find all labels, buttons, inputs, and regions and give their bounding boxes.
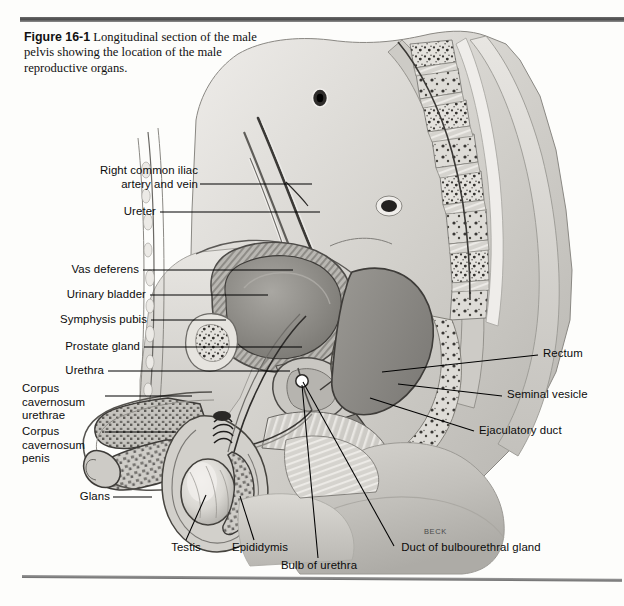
label-rectum: Rectum [543, 347, 621, 361]
label-duct-of-bulbourethral-gland: Duct of bulbourethral gland [381, 541, 561, 555]
artist-signature: BECK [424, 527, 447, 536]
label-vas-deferens: Vas deferens [18, 263, 139, 277]
figure-number: Figure 16-1 [24, 30, 90, 44]
label-ejaculatory-duct: Ejaculatory duct [479, 424, 619, 438]
label-prostate-gland: Prostate gland [18, 340, 140, 354]
figure-page: Figure 16-1 Longitudinal section of the … [0, 0, 624, 606]
label-urinary-bladder: Urinary bladder [18, 288, 146, 302]
label-testis: Testis [150, 541, 222, 555]
anatomical-illustration [0, 0, 624, 606]
label-epididymis: Epididymis [218, 541, 302, 555]
label-corpus-cavernosum-penis: Corpus cavernosum penis [22, 425, 118, 466]
label-urethra: Urethra [18, 364, 104, 378]
label-bulb-of-urethra: Bulb of urethra [267, 559, 371, 573]
label-right-common-iliac-artery-and-vein: Right common iliac artery and vein [18, 164, 198, 191]
label-symphysis-pubis: Symphysis pubis [18, 313, 147, 327]
label-seminal-vesicle: Seminal vesicle [507, 388, 621, 402]
label-ureter: Ureter [18, 205, 156, 219]
label-corpus-cavernosum-urethrae: Corpus cavernosum urethrae [22, 382, 118, 423]
figure-caption: Figure 16-1 Longitudinal section of the … [24, 30, 272, 76]
label-glans: Glans [18, 490, 110, 504]
